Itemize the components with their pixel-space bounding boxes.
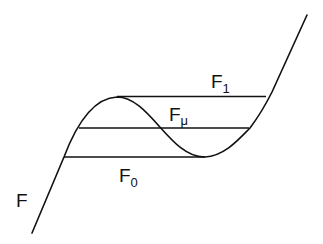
label-fmu: Fμ [169, 104, 188, 128]
label-f: F [16, 190, 28, 211]
label-f1: F1 [211, 71, 230, 96]
van-der-waals-loop-diagram: F F1 Fμ F0 [0, 0, 323, 244]
label-f0: F0 [119, 165, 138, 190]
